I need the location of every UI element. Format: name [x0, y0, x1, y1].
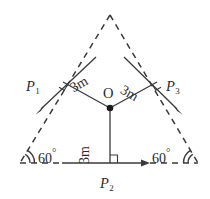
geometry-diagram: P1 P3 P2 O 3m 3m 3m 60° 60° — [0, 0, 210, 199]
distance-label-vertical: 3m — [78, 146, 92, 164]
angle-label-right: 60° — [152, 148, 170, 166]
ray-along-base-arrowhead — [141, 160, 150, 167]
point-label-p2: P2 — [100, 176, 113, 191]
point-label-p3: P3 — [166, 79, 179, 94]
right-angle-mark-base — [110, 155, 118, 163]
point-label-o: O — [103, 86, 113, 101]
angle-arc-right-outer — [188, 154, 193, 163]
point-label-p1: P1 — [26, 79, 39, 94]
angle-arc-left-outer — [25, 154, 30, 163]
center-point-dot — [107, 105, 114, 112]
angle-label-left: 60° — [38, 148, 56, 166]
